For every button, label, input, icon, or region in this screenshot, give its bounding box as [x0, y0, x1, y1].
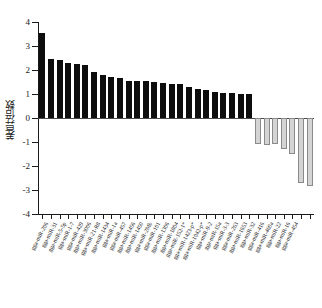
bar [39, 33, 45, 118]
bar [134, 81, 140, 118]
bar [255, 118, 261, 144]
bar [212, 92, 218, 118]
x-tick-mark [267, 215, 268, 219]
bar [186, 87, 192, 118]
x-tick-mark [258, 215, 259, 219]
x-tick-mark [85, 215, 86, 219]
y-tick-label: -2 [8, 162, 30, 171]
x-tick-mark [180, 215, 181, 219]
bar [289, 118, 295, 154]
bar [307, 118, 313, 186]
bar [151, 82, 157, 118]
x-axis-line [38, 214, 314, 215]
x-tick-mark [60, 215, 61, 219]
x-tick-mark [129, 215, 130, 219]
x-tick-mark [172, 215, 173, 219]
x-tick-mark [103, 215, 104, 219]
x-tick-mark [198, 215, 199, 219]
x-tick-mark [292, 215, 293, 219]
x-tick-mark [154, 215, 155, 219]
y-tick-mark [32, 214, 38, 215]
x-tick-mark [51, 215, 52, 219]
y-tick-label: 0 [8, 114, 30, 123]
y-tick-mark [32, 142, 38, 143]
y-tick-mark [32, 166, 38, 167]
bar [203, 90, 209, 118]
x-tick-mark [241, 215, 242, 219]
x-tick-mark [249, 215, 250, 219]
y-tick-mark [32, 22, 38, 23]
y-tick-label: 4 [8, 18, 30, 27]
bar [238, 94, 244, 118]
bar [169, 84, 175, 118]
x-tick-mark [215, 215, 216, 219]
bar [117, 78, 123, 118]
bar [220, 93, 226, 118]
bar [160, 83, 166, 118]
bar [177, 84, 183, 118]
y-tick-label: -4 [8, 210, 30, 219]
y-tick-label: 3 [8, 42, 30, 51]
bar [100, 75, 106, 118]
y-tick-label: -1 [8, 138, 30, 147]
bar [48, 59, 54, 118]
x-tick-mark [275, 215, 276, 219]
bar [246, 94, 252, 118]
bar [298, 118, 304, 183]
bar [272, 118, 278, 144]
bar [264, 118, 270, 145]
x-tick-mark [77, 215, 78, 219]
bar [91, 72, 97, 118]
bar [57, 60, 63, 118]
x-tick-mark [146, 215, 147, 219]
y-tick-mark [32, 190, 38, 191]
x-tick-mark [137, 215, 138, 219]
bar [143, 81, 149, 118]
bar [65, 63, 71, 118]
x-tick-mark [284, 215, 285, 219]
x-tick-mark [42, 215, 43, 219]
bar [82, 65, 88, 118]
bar [281, 118, 287, 149]
x-tick-mark [120, 215, 121, 219]
y-tick-label: 1 [8, 90, 30, 99]
bar [195, 89, 201, 118]
x-tick-mark [310, 215, 311, 219]
y-tick-label: 2 [8, 66, 30, 75]
bar [126, 81, 132, 118]
bar-chart-figure: 差异倍数 43210-1-2-3-4 gga-miR-206gga-miR-31… [0, 0, 322, 308]
bar [108, 77, 114, 118]
x-tick-mark [301, 215, 302, 219]
x-tick-mark [163, 215, 164, 219]
x-tick-mark [232, 215, 233, 219]
x-tick-mark [223, 215, 224, 219]
y-tick-mark [32, 94, 38, 95]
x-tick-mark [111, 215, 112, 219]
x-tick-mark [94, 215, 95, 219]
y-tick-mark [32, 70, 38, 71]
y-tick-mark [32, 46, 38, 47]
x-tick-mark [189, 215, 190, 219]
bar [74, 64, 80, 118]
y-tick-label: -3 [8, 186, 30, 195]
x-tick-mark [68, 215, 69, 219]
bar [229, 93, 235, 118]
x-tick-mark [206, 215, 207, 219]
